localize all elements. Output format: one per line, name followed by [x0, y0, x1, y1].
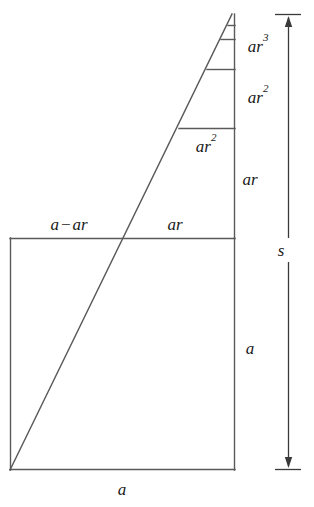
label-top-edge-ar: ar — [167, 216, 182, 233]
label-a-part: a — [50, 215, 59, 234]
label-ar-base: ar — [248, 37, 263, 56]
geometric-series-figure: a a a−ar ar ar ar2 ar2 ar3 s — [0, 0, 314, 507]
label-square-right-a: a — [246, 340, 255, 357]
label-exponent: 3 — [263, 31, 269, 43]
label-ar-base: ar — [196, 137, 211, 156]
label-exponent: 2 — [211, 131, 217, 143]
label-segment-ar2-lower: ar2 — [196, 137, 217, 156]
minus-sign: − — [59, 215, 73, 234]
label-ar-base: ar — [248, 88, 263, 107]
figure-line-art — [0, 0, 314, 507]
bracket-arrow-down — [285, 457, 292, 468]
label-segment-ar2-upper: ar2 — [248, 88, 269, 107]
label-bracket-s: s — [278, 242, 285, 259]
label-segment-ar: ar — [242, 171, 257, 188]
label-top-edge-a-minus-ar: a−ar — [50, 216, 87, 233]
diagonal-line — [10, 14, 232, 470]
label-segment-ar3: ar3 — [248, 37, 269, 56]
label-ar-part: ar — [72, 215, 87, 234]
label-exponent: 2 — [263, 82, 269, 94]
label-square-bottom-a: a — [118, 481, 127, 498]
bracket-arrow-up — [285, 16, 292, 27]
